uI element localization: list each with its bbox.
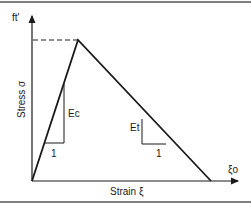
et-slope-triangle bbox=[142, 119, 166, 144]
ec-run-label: 1 bbox=[51, 148, 57, 159]
et-run-label: 1 bbox=[156, 148, 162, 159]
et-label: Et bbox=[130, 122, 140, 133]
ec-label: Ec bbox=[68, 108, 80, 119]
x-axis-end-label: ξo bbox=[228, 164, 238, 176]
stress-strain-curve bbox=[32, 40, 211, 181]
x-axis-label: Strain ξ bbox=[110, 186, 144, 198]
y-axis-top-label: ft' bbox=[12, 12, 20, 23]
y-axis-label: Stress σ bbox=[16, 80, 27, 118]
stress-strain-diagram: ft' Stress σ Strain ξ ξo Ec Et 1 1 bbox=[0, 0, 251, 206]
